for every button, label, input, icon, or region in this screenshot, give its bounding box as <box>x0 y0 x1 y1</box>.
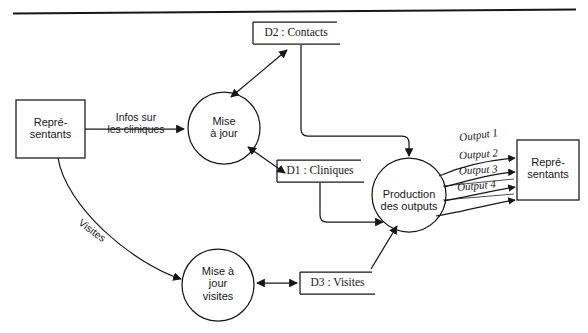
flow-d3-production <box>371 226 397 269</box>
entity-right-label: Repré- sentants <box>517 156 579 181</box>
flow-infos-line2: les cliniques <box>94 124 178 136</box>
entity-left-label-line1: Repré- <box>16 116 85 128</box>
process-maj-line1: Mise <box>188 115 260 127</box>
entity-left-label: Repré- sentants <box>16 116 85 141</box>
process-maj-line2: à jour <box>188 127 260 139</box>
store-label-d2: D2 : Contacts <box>253 26 339 39</box>
process-production-line2: des outputs <box>357 200 461 212</box>
flow-maj-d2 <box>231 50 287 97</box>
entity-left-label-line2: sentants <box>16 128 85 140</box>
store-label-d3: D3 : Visites <box>300 276 375 289</box>
store-label-d1: D1 : Cliniques <box>277 164 363 177</box>
entity-right-label-line2: sentants <box>517 168 579 180</box>
process-label-maj: Mise à jour <box>188 115 260 140</box>
process-majvisites-line2: jour <box>182 277 254 289</box>
flow-infos-line1: Infos sur <box>94 112 178 124</box>
process-label-maj-visites: Mise à jour visites <box>182 265 254 302</box>
flow-d2-production <box>301 45 409 156</box>
process-majvisites-line1: Mise à <box>182 265 254 277</box>
flow-label-infos-cliniques: Infos sur les cliniques <box>94 112 178 136</box>
page-rule <box>13 10 576 14</box>
entity-right-label-line1: Repré- <box>517 156 579 168</box>
dfd-canvas: Repré- sentants Repré- sentants Mise à j… <box>0 0 588 333</box>
process-majvisites-line3: visites <box>182 290 254 302</box>
